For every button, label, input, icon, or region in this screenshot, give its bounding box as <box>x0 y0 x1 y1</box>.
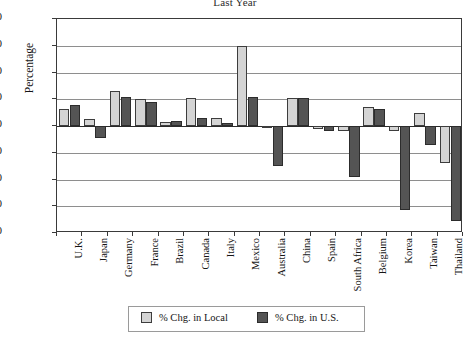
bar <box>338 126 349 131</box>
bar <box>425 126 436 145</box>
bar <box>324 126 335 131</box>
bar <box>160 122 171 126</box>
x-axis-tick-mark <box>132 232 133 236</box>
bar <box>135 99 146 126</box>
bar-group <box>237 19 259 231</box>
x-axis-tick-label: Belgium <box>377 238 388 274</box>
bar <box>211 118 222 126</box>
x-axis-tick-mark <box>284 232 285 236</box>
y-axis-tick-label: 20 <box>0 64 2 76</box>
x-axis-tick-label: Taiwan <box>428 238 439 269</box>
bar <box>171 121 182 126</box>
bar <box>363 107 374 126</box>
bar-group <box>313 19 335 231</box>
bar <box>110 91 121 126</box>
bar <box>70 105 81 126</box>
x-axis-tick-label: Japan <box>98 238 109 262</box>
x-axis-tick-mark <box>183 232 184 236</box>
bar <box>121 97 132 126</box>
x-axis-tick-mark <box>462 232 463 236</box>
bar-group <box>262 19 284 231</box>
y-axis-tick-label: 30 <box>0 37 2 49</box>
x-axis-tick-mark <box>361 232 362 236</box>
legend-item: % Chg. in Local <box>141 312 228 323</box>
bar <box>237 46 248 126</box>
bar-group <box>287 19 309 231</box>
y-axis-tick-label: –10 <box>0 144 2 156</box>
y-axis-tick-label: –40 <box>0 224 2 236</box>
legend-item: % Chg. in U.S. <box>257 312 339 323</box>
x-axis-tick-label: Italy <box>225 238 236 257</box>
chart-container: Last Year Percentage 403020100–10–20–30–… <box>0 0 470 344</box>
bar-group <box>440 19 462 231</box>
chart-legend: % Chg. in Local% Chg. in U.S. <box>128 306 365 332</box>
plot-area <box>56 18 462 232</box>
x-axis-tick-mark <box>234 232 235 236</box>
bar-group <box>84 19 106 231</box>
x-axis-tick-label: China <box>301 238 312 263</box>
bar-group <box>414 19 436 231</box>
bar <box>287 98 298 126</box>
x-axis-tick-label: Korea <box>403 238 414 264</box>
x-axis-tick-label: Australia <box>276 238 287 277</box>
bar <box>95 126 106 138</box>
bar <box>414 113 425 126</box>
y-axis-tick-label: 0 <box>0 117 2 129</box>
y-axis-tick-label: –30 <box>0 197 2 209</box>
x-axis-tick-label: France <box>149 238 160 267</box>
bar <box>389 126 400 131</box>
bar-group <box>338 19 360 231</box>
legend-swatch-icon <box>141 312 152 323</box>
bar-group <box>186 19 208 231</box>
x-axis-tick-mark <box>310 232 311 236</box>
x-axis-tick-mark <box>259 232 260 236</box>
x-axis-tick-label: Spain <box>326 238 337 262</box>
x-axis-tick-label: Thailand <box>453 238 464 275</box>
x-axis-tick-mark <box>386 232 387 236</box>
bar-group <box>135 19 157 231</box>
x-axis-tick-label: Canada <box>200 238 211 270</box>
bar <box>59 109 70 126</box>
legend-label: % Chg. in Local <box>159 312 228 323</box>
bar <box>298 98 309 126</box>
y-axis-tick-label: –20 <box>0 171 2 183</box>
bar <box>197 118 208 126</box>
x-axis-tick-mark <box>411 232 412 236</box>
y-axis-title: Percentage <box>23 13 35 123</box>
x-axis-tick-mark <box>56 232 57 236</box>
bar-group <box>110 19 132 231</box>
bar-groups <box>57 19 461 231</box>
x-axis-tick-mark <box>158 232 159 236</box>
x-axis-tick-label: Mexico <box>250 238 261 270</box>
bar <box>146 102 157 126</box>
bar-group <box>389 19 411 231</box>
bar <box>440 126 451 163</box>
x-axis-tick-label: South Africa <box>352 238 363 291</box>
legend-swatch-icon <box>257 312 268 323</box>
bar <box>273 126 284 166</box>
x-axis-tick-label: Brazil <box>174 238 185 264</box>
bar <box>451 126 462 221</box>
bar <box>222 123 233 126</box>
x-axis-tick-mark <box>437 232 438 236</box>
bar <box>313 126 324 129</box>
legend-label: % Chg. in U.S. <box>275 312 339 323</box>
x-axis-tick-label: Germany <box>123 238 134 277</box>
y-axis-tick-label: 10 <box>0 90 2 102</box>
x-axis-tick-label: U.K. <box>73 238 84 258</box>
bar-group <box>59 19 81 231</box>
bar <box>349 126 360 177</box>
bar <box>186 98 197 126</box>
x-axis-tick-mark <box>81 232 82 236</box>
bar-group <box>160 19 182 231</box>
bar <box>248 97 259 126</box>
bar-group <box>211 19 233 231</box>
x-axis-tick-mark <box>107 232 108 236</box>
chart-title: Last Year <box>0 0 470 8</box>
x-axis-tick-mark <box>208 232 209 236</box>
bar <box>374 109 385 126</box>
x-axis-tick-mark <box>335 232 336 236</box>
bar-group <box>363 19 385 231</box>
bar <box>262 126 273 128</box>
bar <box>84 119 95 126</box>
